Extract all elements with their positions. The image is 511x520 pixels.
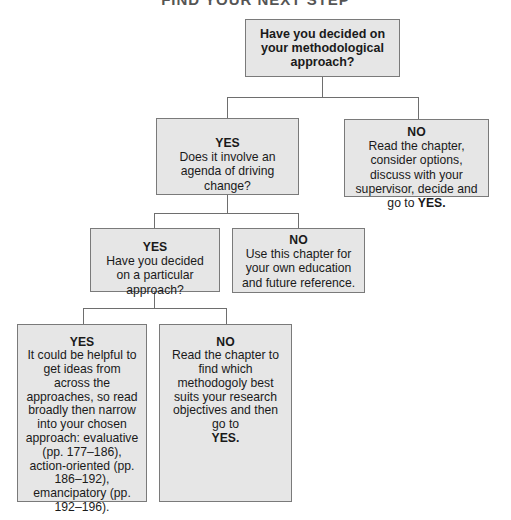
no1-text: Read the chapter, consider options, disc…	[356, 139, 478, 210]
connector	[83, 308, 84, 324]
yes2-text: Have you decided on a particular approac…	[91, 254, 219, 297]
connector	[418, 97, 419, 119]
no3-box: NO Read the chapter to find which method…	[159, 324, 292, 502]
yes3-text: It could be helpful to get ideas from ac…	[18, 349, 146, 515]
connector	[154, 213, 299, 214]
no3-text-wrap: Read the chapter to find which methodogo…	[160, 349, 291, 446]
connector	[227, 195, 228, 213]
connector	[226, 308, 227, 324]
connector	[83, 308, 227, 309]
yes2-box: YES Have you decided on a particular app…	[90, 228, 220, 292]
no2-label: NO	[289, 233, 307, 247]
no1-text-wrap: Read the chapter, consider options, disc…	[345, 139, 488, 210]
connector	[322, 77, 323, 98]
no2-text: Use this chapter for your own education …	[233, 247, 364, 290]
yes3-label: YES	[70, 335, 94, 349]
no3-label: NO	[216, 335, 234, 349]
diagram-title: FIND YOUR NEXT STEP	[0, 0, 511, 8]
yes2-label: YES	[143, 240, 167, 254]
no3-emphasis: YES.	[212, 431, 240, 445]
connector	[227, 97, 419, 98]
yes1-text: Does it involve an agenda of driving cha…	[157, 150, 298, 193]
root-question-box: Have you decided on your methodological …	[245, 19, 400, 77]
yes1-box: YES Does it involve an agenda of driving…	[156, 118, 299, 195]
connector	[227, 97, 228, 118]
no3-text: Read the chapter to find which methodogo…	[172, 348, 279, 431]
root-question-text: Have you decided on your methodological …	[252, 27, 393, 70]
connector	[298, 213, 299, 228]
no2-box: NO Use this chapter for your own educati…	[232, 228, 365, 293]
yes3-box: YES It could be helpful to get ideas fro…	[17, 324, 147, 502]
no1-label: NO	[407, 125, 425, 139]
no1-emphasis: YES.	[418, 196, 446, 210]
yes1-label: YES	[215, 136, 239, 150]
no1-box: NO Read the chapter, consider options, d…	[344, 119, 489, 197]
connector	[154, 213, 155, 228]
